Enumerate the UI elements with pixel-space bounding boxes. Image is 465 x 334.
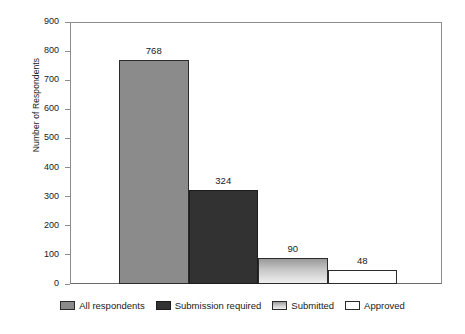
y-axis-tick-label: 0: [54, 278, 59, 288]
legend-item-all-respondents[interactable]: All respondents: [60, 300, 144, 311]
legend-swatch-icon: [272, 301, 287, 310]
y-axis-title: Number of Respondents: [31, 25, 41, 185]
y-axis-tick-label: 900: [44, 16, 59, 26]
legend-item-label: Submitted: [291, 300, 334, 311]
legend-item-label: Approved: [364, 300, 405, 311]
legend-item-label: All respondents: [79, 300, 144, 311]
bar-approved[interactable]: 48: [328, 270, 398, 284]
y-axis-tick-label: 600: [44, 103, 59, 113]
y-axis-tick-label: 800: [44, 45, 59, 55]
bar-value-label: 324: [190, 175, 258, 186]
y-axis-tick-label: 200: [44, 220, 59, 230]
y-axis-tick-label: 400: [44, 162, 59, 172]
legend-item-approved[interactable]: Approved: [345, 300, 405, 311]
bar-value-label: 768: [120, 45, 188, 56]
bar-submitted[interactable]: 90: [258, 258, 328, 284]
legend-swatch-icon: [60, 301, 75, 310]
bars-layer: 7683249048: [70, 22, 442, 284]
legend-item-submitted[interactable]: Submitted: [272, 300, 334, 311]
legend-swatch-icon: [156, 301, 171, 310]
y-axis-tick-label: 500: [44, 132, 59, 142]
legend-swatch-icon: [345, 301, 360, 310]
y-axis-tick-label: 700: [44, 74, 59, 84]
bar-value-label: 90: [259, 243, 327, 254]
bar-all-respondents[interactable]: 768: [119, 60, 189, 284]
bar-chart: Number of Respondents 900800700600500400…: [0, 0, 465, 334]
y-axis-tick-label: 100: [44, 249, 59, 259]
legend-item-submission-required[interactable]: Submission required: [156, 300, 262, 311]
y-axis-tick-label: 300: [44, 191, 59, 201]
bar-value-label: 48: [329, 255, 397, 266]
legend-item-label: Submission required: [175, 300, 262, 311]
bar-submission-required[interactable]: 324: [189, 190, 259, 284]
chart-legend: All respondentsSubmission requiredSubmit…: [0, 300, 465, 311]
